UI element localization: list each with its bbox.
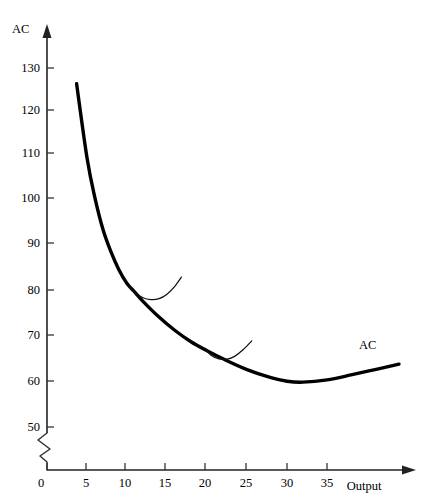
ac-envelope-curve <box>77 84 399 382</box>
y-axis-break-icon <box>38 433 50 470</box>
srac-curve-2 <box>205 341 251 360</box>
ac-curve-label: AC <box>359 338 376 352</box>
x-tick-label-0: 0 <box>38 476 44 490</box>
ac-curve-figure: 130 120 110 100 90 80 70 60 50 0 5 10 15 <box>0 0 423 496</box>
x-tick-label-10: 10 <box>119 476 132 490</box>
y-axis <box>38 24 52 470</box>
x-axis-title: Output <box>347 479 382 493</box>
x-tick-label-25: 25 <box>240 476 253 490</box>
x-axis-arrow <box>402 466 416 475</box>
y-tick-label-90: 90 <box>28 236 41 250</box>
y-tick-label-80: 80 <box>28 283 41 297</box>
x-tick-label-15: 15 <box>159 476 172 490</box>
y-axis-title: AC <box>12 22 29 36</box>
y-tick-label-50: 50 <box>28 420 41 434</box>
chart-canvas: 130 120 110 100 90 80 70 60 50 0 5 10 15 <box>0 0 423 496</box>
x-tick-group <box>47 463 327 470</box>
y-tick-label-130: 130 <box>21 61 40 75</box>
x-axis <box>47 466 416 475</box>
x-tick-label-20: 20 <box>199 476 212 490</box>
x-tick-label-30: 30 <box>281 476 294 490</box>
y-axis-arrow <box>43 24 52 38</box>
x-tick-label-35: 35 <box>321 476 334 490</box>
curve-group <box>77 84 399 382</box>
x-tick-label-5: 5 <box>83 476 89 490</box>
x-tick-labels: 0 5 10 15 20 25 30 35 <box>38 476 333 490</box>
y-tick-group <box>47 68 54 427</box>
y-tick-label-120: 120 <box>21 103 40 117</box>
y-tick-label-100: 100 <box>21 191 40 205</box>
y-tick-label-60: 60 <box>28 374 41 388</box>
y-tick-label-110: 110 <box>22 146 40 160</box>
y-tick-label-70: 70 <box>28 328 41 342</box>
y-tick-labels: 130 120 110 100 90 80 70 60 50 <box>21 61 40 434</box>
